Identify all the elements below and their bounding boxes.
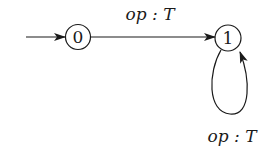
state-diagram: 0 op : T 1 op : T	[0, 0, 279, 155]
state-0-label: 0	[73, 27, 84, 47]
state-0: 0	[66, 25, 91, 50]
state-1-label: 1	[223, 28, 234, 48]
state-1: 1	[215, 25, 241, 51]
transition-1-self-loop	[212, 50, 247, 114]
transition-0-to-1-label: op : T	[126, 4, 177, 24]
transition-1-self-loop-label: op : T	[208, 126, 259, 146]
